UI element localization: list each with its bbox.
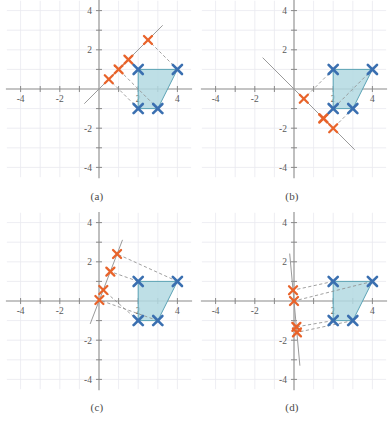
data-point-marker	[319, 114, 327, 122]
svg-text:-4: -4	[17, 306, 25, 316]
panel-b: -4-224-4-224 (b)	[195, 0, 389, 211]
svg-text:-4: -4	[212, 94, 220, 104]
figure-container: -4-224-4-224 (a) -4-224-4-224 (b) -4-224…	[0, 0, 389, 423]
svg-text:-4: -4	[279, 375, 287, 385]
svg-text:-2: -2	[251, 306, 259, 316]
svg-text:-2: -2	[279, 336, 287, 346]
data-point-marker	[105, 75, 113, 83]
svg-text:4: 4	[87, 6, 92, 16]
data-point-marker	[99, 286, 107, 294]
svg-text:-4: -4	[84, 375, 92, 385]
panel-d-caption: (d)	[195, 401, 389, 413]
data-point-marker	[300, 95, 308, 103]
svg-text:4: 4	[282, 6, 287, 16]
data-point-marker	[144, 36, 152, 44]
svg-text:4: 4	[370, 94, 375, 104]
panel-d-plot: -4-224-4-224	[195, 212, 389, 402]
panel-b-plot: -4-224-4-224	[195, 0, 389, 190]
projection-line	[290, 254, 300, 366]
svg-text:-4: -4	[279, 163, 287, 173]
svg-text:-2: -2	[84, 336, 92, 346]
panel-c: -4-224-4-224 (c)	[0, 212, 194, 423]
svg-text:-2: -2	[279, 124, 287, 134]
panel-a: -4-224-4-224 (a)	[0, 0, 194, 211]
svg-text:4: 4	[175, 306, 180, 316]
svg-text:-2: -2	[56, 94, 64, 104]
svg-text:-2: -2	[56, 306, 64, 316]
svg-text:-2: -2	[84, 124, 92, 134]
data-point-marker	[124, 56, 132, 64]
svg-text:4: 4	[370, 306, 375, 316]
panel-a-plot: -4-224-4-224	[0, 0, 194, 190]
svg-text:4: 4	[87, 218, 92, 228]
svg-text:-4: -4	[212, 306, 220, 316]
data-point-marker	[113, 250, 121, 258]
panel-b-caption: (b)	[195, 190, 389, 202]
svg-text:2: 2	[282, 45, 287, 55]
svg-text:2: 2	[282, 257, 287, 267]
svg-text:-4: -4	[17, 94, 25, 104]
svg-text:2: 2	[87, 45, 92, 55]
svg-text:2: 2	[87, 257, 92, 267]
panel-a-caption: (a)	[0, 190, 194, 202]
svg-text:4: 4	[175, 94, 180, 104]
panel-c-plot: -4-224-4-224	[0, 212, 194, 402]
svg-text:4: 4	[282, 218, 287, 228]
panel-d: -4-224-4-224 (d)	[195, 212, 389, 423]
svg-text:-4: -4	[84, 163, 92, 173]
svg-text:-2: -2	[251, 94, 259, 104]
panel-c-caption: (c)	[0, 401, 194, 413]
data-point-marker	[106, 268, 114, 276]
